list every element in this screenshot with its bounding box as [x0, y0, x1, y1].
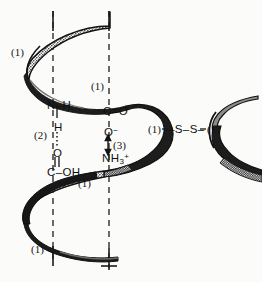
hydrogen-bond-label: (2) — [34, 129, 47, 141]
chem-group-ammonium-nh3: NH3+ — [102, 153, 129, 166]
alpha-helix-figure: N–H H O C–OH C=O O− NH3+ –S–S– (2) (3) (… — [0, 0, 262, 282]
helix-turn-label-6: (1) — [31, 244, 44, 255]
chem-group-carboxyl-coh: C–OH — [47, 167, 81, 179]
chem-group-carbonyl-co: C=O — [103, 106, 128, 118]
chem-group-disulfide-bridge: –S–S– — [168, 124, 205, 136]
helix-turn-label-2: (1) — [91, 81, 104, 92]
second-helix-ribbon — [209, 96, 262, 182]
helix-turn-label-5: (1) — [78, 178, 91, 189]
helix-turn-label-3: (1) — [148, 124, 161, 135]
chem-group-amide-nh: N–H — [47, 100, 71, 112]
ionic-bond-label: (3) — [113, 139, 126, 151]
chem-group-amide-h: H — [54, 122, 63, 134]
chem-group-carboxylate-o: O− — [104, 127, 118, 139]
helix-axis-dashed-lines — [53, 11, 109, 268]
helix-ribbon-drawing — [0, 0, 262, 282]
chem-group-carbonyl-o: O — [53, 148, 62, 160]
helix-turn-label-4: (1) — [207, 124, 220, 135]
helix-turn-label-1: (1) — [11, 47, 24, 58]
